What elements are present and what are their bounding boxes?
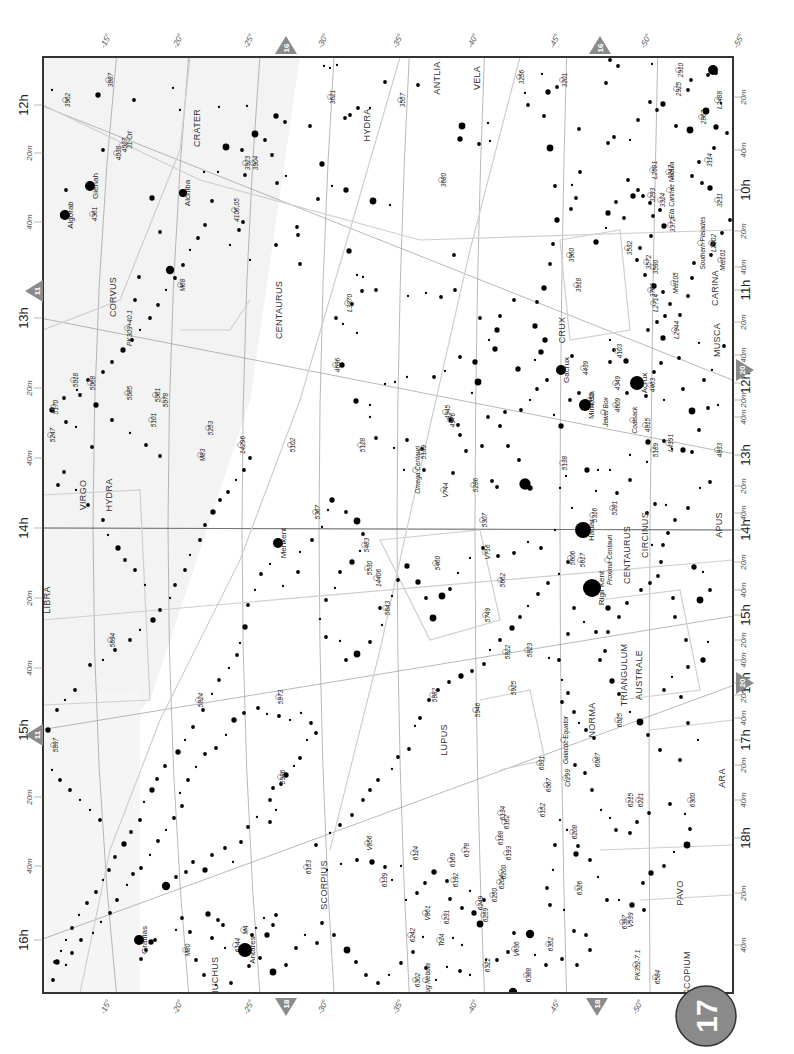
ra-label: 16h (16, 929, 31, 951)
star (331, 185, 333, 187)
star (137, 275, 141, 279)
star (188, 930, 192, 934)
star (370, 198, 377, 205)
dso-label: 5822 (504, 644, 511, 659)
star (393, 447, 395, 449)
star (700, 657, 705, 662)
star (547, 145, 554, 152)
star (506, 950, 510, 954)
star (697, 739, 699, 741)
star (517, 458, 521, 462)
star (458, 969, 462, 973)
star (361, 798, 365, 802)
star (128, 638, 132, 642)
dso-label: PK303+40.1 (126, 310, 133, 346)
star (165, 829, 167, 831)
dso-label: 31 Crt (126, 130, 133, 149)
star (707, 641, 709, 643)
star (144, 443, 148, 447)
star (191, 860, 195, 864)
star-name: Rigil Kent (597, 570, 606, 605)
dso-label: 6193 (505, 845, 512, 860)
dso-label: Omega Centauri (414, 446, 422, 494)
constellation-name: SCORPIUS (319, 860, 329, 909)
star-chart: 39623887402731 Crt40384361392339044106,0… (0, 0, 794, 1054)
ra-label: 15h (16, 719, 31, 741)
constellation-name: CORVUS (108, 277, 118, 317)
star (378, 606, 382, 610)
star (700, 181, 704, 185)
dso-label: Galactic Equator (562, 715, 570, 764)
star (689, 408, 696, 415)
dso-label: 4609 (614, 397, 621, 412)
star (566, 829, 568, 831)
star (418, 716, 422, 720)
star (554, 529, 556, 531)
ra-label: 20m (25, 380, 34, 397)
star (88, 663, 92, 667)
star (457, 572, 459, 574)
chart-link-label[interactable]: 20 (738, 678, 747, 687)
star (625, 601, 629, 605)
dso-label: L2602 (710, 234, 717, 252)
star (353, 398, 358, 403)
dso-label: 5253 (207, 420, 214, 435)
dso-label: 6352 (547, 936, 554, 951)
star (545, 886, 549, 890)
star (163, 764, 167, 768)
star (271, 923, 275, 927)
star (216, 918, 220, 922)
star (614, 200, 618, 204)
star (557, 658, 561, 662)
chart-link-label[interactable]: 11 (33, 730, 42, 739)
star (224, 947, 226, 949)
star (539, 546, 543, 550)
chart-link-label[interactable]: 11 (33, 286, 42, 295)
star (149, 195, 154, 200)
chart-link-label[interactable]: 16 (596, 43, 605, 52)
star (196, 236, 200, 240)
star (690, 174, 694, 178)
dso-label: 3532 (626, 240, 633, 255)
star (121, 841, 126, 846)
star (300, 712, 302, 714)
chart-link-label[interactable]: 16 (282, 43, 291, 52)
star (535, 300, 539, 304)
dso-label: 6188 (497, 830, 504, 845)
star (406, 376, 408, 378)
dso-label: 2867 (700, 109, 707, 125)
star (643, 273, 647, 277)
star (635, 258, 639, 262)
star (515, 366, 520, 371)
star (195, 766, 197, 768)
star (235, 653, 239, 657)
dso-label: 14296 (239, 436, 246, 454)
star (711, 369, 713, 371)
constellation-name: CRUX (557, 317, 567, 344)
star (609, 678, 614, 683)
star (133, 298, 137, 302)
star (354, 651, 361, 658)
chart-link-label[interactable]: 18 (282, 999, 291, 1008)
ra-label: 12h (16, 94, 31, 116)
chart-link-label[interactable]: 18 (593, 999, 602, 1008)
star (526, 103, 530, 107)
star (391, 595, 393, 597)
star (258, 956, 262, 960)
chart-link-label[interactable]: 20 (738, 365, 747, 374)
star (697, 160, 701, 164)
star (548, 657, 550, 659)
star (354, 960, 358, 964)
star (217, 171, 219, 173)
star (293, 765, 295, 767)
star (179, 792, 181, 794)
star (274, 243, 278, 247)
star (519, 408, 523, 412)
star (368, 640, 372, 644)
star (314, 843, 318, 847)
star (254, 589, 256, 591)
star (612, 135, 616, 139)
dso-label: V636 (513, 941, 520, 957)
star (268, 820, 272, 824)
dso-label: 6584 (654, 969, 661, 984)
